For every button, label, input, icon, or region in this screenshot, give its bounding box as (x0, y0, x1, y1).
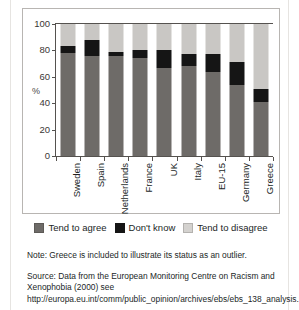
bar-segment (181, 66, 196, 156)
x-axis-tick-mark (249, 157, 250, 161)
y-axis-label: % (22, 86, 40, 96)
x-axis-tick-mark (104, 157, 105, 161)
x-axis-tick-mark (56, 157, 57, 161)
legend-item[interactable]: Tend to agree (34, 222, 106, 233)
bar-segment (133, 50, 148, 58)
chart-legend: Tend to agreeDon't knowTend to disagree (22, 222, 280, 233)
bar-segment (229, 24, 244, 62)
x-axis-tick-label: Italy (193, 163, 203, 180)
bar-segment (109, 56, 124, 156)
legend-label: Tend to disagree (197, 222, 267, 233)
x-axis-tick-mark (80, 157, 81, 161)
bar-slot (249, 24, 273, 156)
y-axis-tick-label: 0 (22, 151, 50, 161)
bar-slot (177, 24, 201, 156)
x-axis-tick-label: Germany (241, 163, 251, 202)
bar-segment (205, 24, 220, 54)
legend-label: Tend to agree (48, 222, 106, 233)
bar-segment (157, 24, 172, 50)
x-axis-tick-label: France (144, 163, 154, 193)
note-text: Note: Greece is included to illustrate i… (27, 250, 277, 262)
bar-slot (80, 24, 104, 156)
bar-segment (85, 56, 100, 156)
x-axis-tick-mark (128, 157, 129, 161)
legend-label: Don't know (129, 222, 176, 233)
y-axis-tick-label: 80 (22, 45, 50, 55)
table-row[interactable] (205, 24, 220, 156)
bar-segment (229, 85, 244, 156)
bar-slot (201, 24, 225, 156)
x-axis-line (55, 156, 273, 157)
table-row[interactable] (253, 24, 268, 156)
bar-segment (205, 54, 220, 71)
legend-swatch-icon (34, 223, 44, 233)
bar-segment (229, 62, 244, 84)
bar-slot (128, 24, 152, 156)
bar-segment (85, 40, 100, 56)
x-axis-tick-label: EU-15 (217, 163, 227, 190)
x-axis-tick-label: Netherlands (120, 163, 130, 214)
x-axis-tick-label: Sweden (72, 163, 82, 197)
page-edge-left (10, 0, 11, 310)
page-edge-right (288, 0, 289, 310)
legend-swatch-icon (183, 223, 193, 233)
legend-item[interactable]: Don't know (115, 222, 176, 233)
x-axis-tick-label: Greece (265, 163, 275, 194)
table-row[interactable] (109, 24, 124, 156)
y-axis-tick-label: 60 (22, 72, 50, 82)
x-axis-tick-label: Spain (96, 163, 106, 187)
table-row[interactable] (133, 24, 148, 156)
x-axis-tick-mark (225, 157, 226, 161)
x-axis-tick-mark (152, 157, 153, 161)
bar-segment (253, 89, 268, 102)
y-axis-tick-label: 100 (22, 19, 50, 29)
bar-slot (152, 24, 176, 156)
notes-block: Note: Greece is included to illustrate i… (27, 250, 277, 305)
bar-segment (61, 24, 76, 46)
bar-segment (253, 24, 268, 89)
x-axis-tick-mark (177, 157, 178, 161)
legend-swatch-icon (115, 223, 125, 233)
table-row[interactable] (229, 24, 244, 156)
bar-segment (61, 53, 76, 156)
bar-segment (85, 24, 100, 40)
bar-slot (225, 24, 249, 156)
bar-segment (157, 68, 172, 156)
bar-segment (133, 58, 148, 156)
legend-item[interactable]: Tend to disagree (183, 222, 267, 233)
table-row[interactable] (85, 24, 100, 156)
x-axis-tick-mark (273, 157, 274, 161)
x-axis-tick-mark (201, 157, 202, 161)
bar-segment (205, 72, 220, 156)
bar-segment (157, 50, 172, 67)
table-row[interactable] (157, 24, 172, 156)
bar-segment (61, 46, 76, 53)
x-axis-tick-label: UK (169, 163, 179, 176)
source-text: Source: Data from the European Monitorin… (27, 271, 277, 306)
table-row[interactable] (61, 24, 76, 156)
bar-segment (253, 102, 268, 156)
bar-segment (181, 24, 196, 54)
bar-segment (181, 54, 196, 66)
table-row[interactable] (181, 24, 196, 156)
bar-slot (104, 24, 128, 156)
bars-area (56, 24, 273, 156)
y-axis-tick-label: 20 (22, 125, 50, 135)
bar-slot (56, 24, 80, 156)
bar-segment (133, 24, 148, 50)
y-axis-tick-label: 40 (22, 98, 50, 108)
bar-segment (109, 52, 124, 56)
figure-container: % 100806040200 SwedenSpainNetherlandsFra… (0, 0, 299, 310)
bar-segment (109, 24, 124, 52)
